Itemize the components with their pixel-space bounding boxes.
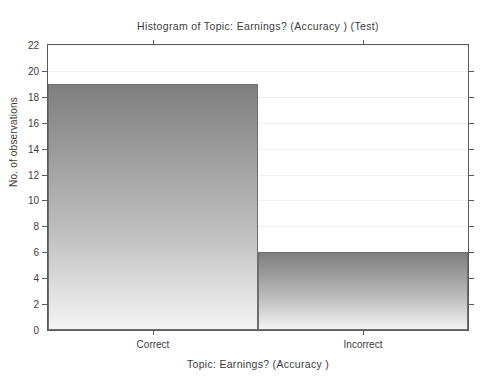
- x-axis-title: Topic: Earnings? (Accuracy ): [47, 358, 469, 370]
- y-axis-tick: [42, 175, 48, 176]
- y-axis-tick-label: 4: [33, 273, 39, 284]
- y-axis-tick-right: [468, 200, 474, 201]
- x-axis-tick: [363, 330, 364, 335]
- y-axis-tick: [42, 252, 48, 253]
- histogram-bar: [48, 84, 258, 330]
- x-axis-tick-label: Incorrect: [344, 339, 383, 350]
- y-axis-tick-right: [468, 175, 474, 176]
- histogram-figure: Histogram of Topic: Earnings? (Accuracy …: [0, 0, 490, 379]
- y-axis-tick-right: [468, 149, 474, 150]
- x-axis-tick-top: [153, 40, 154, 45]
- y-axis-tick-label: 0: [33, 325, 39, 336]
- y-axis-tick-label: 6: [33, 247, 39, 258]
- y-axis-tick: [42, 123, 48, 124]
- gridline: [48, 71, 468, 72]
- y-axis-tick-right: [468, 278, 474, 279]
- y-axis-tick: [42, 226, 48, 227]
- y-axis-tick-right: [468, 71, 474, 72]
- plot-area: 0246810121416182022CorrectIncorrect: [47, 44, 469, 331]
- y-axis-tick-label: 8: [33, 221, 39, 232]
- plot-inner: [48, 45, 468, 330]
- y-axis-tick-label: 12: [28, 169, 39, 180]
- y-axis-tick-label: 14: [28, 143, 39, 154]
- y-axis-tick: [42, 304, 48, 305]
- y-axis-tick: [42, 97, 48, 98]
- y-axis-tick-label: 22: [28, 40, 39, 51]
- y-axis-title: No. of observations: [8, 97, 19, 187]
- y-axis-tick-label: 16: [28, 117, 39, 128]
- y-axis-tick: [42, 71, 48, 72]
- x-axis-tick-label: Correct: [137, 339, 170, 350]
- x-axis-tick-top: [363, 40, 364, 45]
- y-axis-tick-right: [468, 97, 474, 98]
- gridline: [48, 45, 468, 46]
- y-axis-tick-label: 2: [33, 299, 39, 310]
- chart-title: Histogram of Topic: Earnings? (Accuracy …: [47, 20, 469, 32]
- y-axis-tick-right: [468, 252, 474, 253]
- y-axis-tick-right: [468, 123, 474, 124]
- y-axis-tick: [42, 278, 48, 279]
- histogram-bar: [258, 252, 468, 330]
- y-axis-tick-right: [468, 304, 474, 305]
- y-axis-tick-right: [468, 226, 474, 227]
- y-axis-tick: [42, 200, 48, 201]
- y-axis-tick: [42, 149, 48, 150]
- y-axis-tick-label: 20: [28, 65, 39, 76]
- y-axis-tick-label: 18: [28, 91, 39, 102]
- y-axis-tick-label: 10: [28, 195, 39, 206]
- x-axis-tick: [153, 330, 154, 335]
